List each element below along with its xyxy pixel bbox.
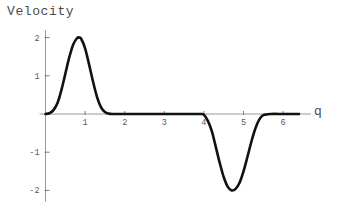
velocity-plot: Velocity q 12345621-1-2 [0, 0, 342, 211]
x-tick-label: 3 [162, 118, 167, 128]
x-tick-label: 6 [281, 118, 286, 128]
y-tick-label: -1 [29, 148, 39, 158]
y-tick-label: 1 [34, 72, 39, 82]
x-tick-label: 2 [122, 118, 127, 128]
y-tick-label: -2 [29, 186, 39, 196]
axes-group [40, 30, 311, 202]
x-tick-label: 1 [83, 118, 88, 128]
x-tick-label: 5 [241, 118, 246, 128]
x-tick-label: 4 [201, 118, 206, 128]
chart-canvas: 12345621-1-2 [0, 0, 342, 211]
y-tick-label: 2 [34, 34, 39, 44]
